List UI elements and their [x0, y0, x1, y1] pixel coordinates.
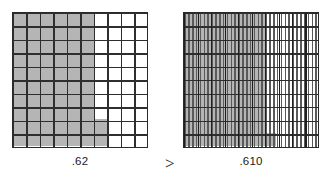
comparison-symbol: > [165, 155, 175, 172]
diagram-canvas: .62 > .610 [0, 0, 332, 180]
thousandths-shaded-partial-strip [265, 133, 276, 147]
thousandths-value-label: .610 [221, 156, 281, 168]
thousandths-grid [183, 12, 319, 148]
hundredths-value-label: .62 [50, 156, 110, 168]
thousandths-grid-border [183, 12, 319, 148]
hundredths-grid-border [12, 12, 148, 148]
hundredths-shaded-partial-column [94, 119, 108, 146]
hundredths-grid [12, 12, 148, 148]
thousandths-shaded-full-columns [184, 13, 265, 146]
hundredths-shaded-full-columns [13, 13, 94, 146]
